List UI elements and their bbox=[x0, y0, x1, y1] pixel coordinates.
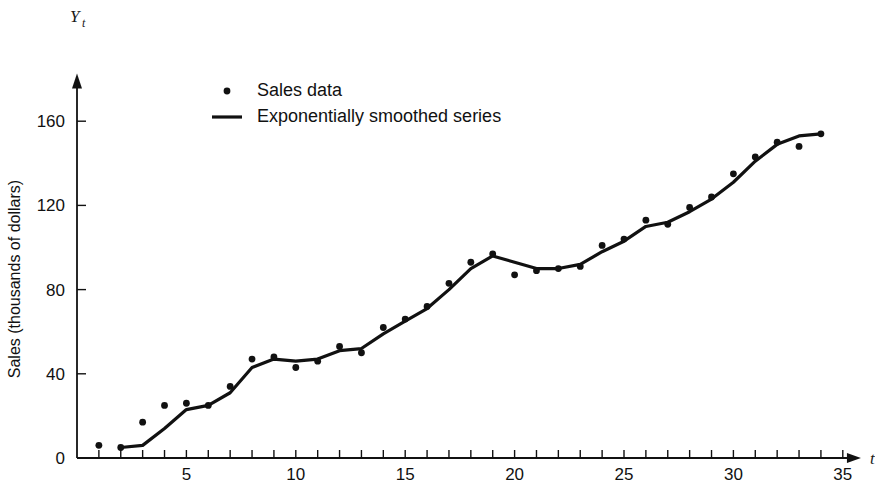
y-axis-tick-label: 160 bbox=[37, 112, 65, 131]
sales-data-point bbox=[774, 139, 781, 146]
sales-data-point bbox=[664, 221, 671, 228]
sales-data-point bbox=[380, 324, 387, 331]
sales-data-point bbox=[336, 343, 343, 350]
sales-data-point bbox=[314, 358, 321, 365]
sales-data-point bbox=[358, 349, 365, 356]
x-axis-tick-label: 25 bbox=[615, 465, 634, 481]
sales-data-point bbox=[555, 265, 562, 272]
sales-data-point bbox=[599, 242, 606, 249]
y-axis-arrow-icon bbox=[72, 74, 82, 89]
sales-data-point bbox=[467, 259, 474, 266]
sales-data-point bbox=[642, 217, 649, 224]
sales-data-point bbox=[292, 364, 299, 371]
sales-data-point bbox=[271, 354, 278, 361]
y-axis-tick-label: 120 bbox=[37, 196, 65, 215]
legend-dot-icon bbox=[224, 88, 231, 95]
sales-data-point bbox=[117, 444, 124, 451]
x-axis-tick-label: 15 bbox=[396, 465, 415, 481]
sales-data-point bbox=[752, 154, 759, 161]
sales-exponential-smoothing-chart: Sales dataExponentially smoothed series … bbox=[0, 0, 875, 481]
y-axis-tick-label: 40 bbox=[46, 365, 65, 384]
x-axis-tick-label: 30 bbox=[724, 465, 743, 481]
y-axis-label: Sales (thousands of dollars) bbox=[6, 180, 23, 378]
legend-label-sales-data: Sales data bbox=[257, 80, 343, 100]
sales-data-point bbox=[796, 143, 803, 150]
labels-group: 510152025303504080120160Sales (thousands… bbox=[6, 7, 875, 481]
x-axis-tick-label: 35 bbox=[833, 465, 852, 481]
sales-data-point bbox=[533, 267, 540, 274]
x-axis-tick-label: 10 bbox=[286, 465, 305, 481]
x-axis-tick-label: 20 bbox=[505, 465, 524, 481]
sales-data-point bbox=[402, 316, 409, 323]
x-axis-arrow-icon bbox=[847, 453, 861, 463]
x-axis-symbol: t bbox=[870, 449, 875, 468]
smoothed-series-line bbox=[121, 134, 821, 448]
sales-data-point bbox=[227, 383, 234, 390]
y-axis-tick-label: 80 bbox=[46, 281, 65, 300]
sales-data-point bbox=[621, 236, 628, 243]
sales-data-point bbox=[818, 130, 825, 137]
sales-data-point bbox=[205, 402, 212, 409]
sales-data-point bbox=[139, 419, 146, 426]
sales-data-point bbox=[95, 442, 102, 449]
sales-data-point bbox=[686, 204, 693, 211]
sales-data-point bbox=[708, 194, 715, 201]
sales-data-point bbox=[161, 402, 168, 409]
sales-data-point bbox=[183, 400, 190, 407]
sales-data-point bbox=[424, 303, 431, 310]
legend-group: Sales dataExponentially smoothed series bbox=[212, 80, 501, 126]
sales-data-point bbox=[249, 356, 256, 363]
x-axis-tick-label: 5 bbox=[182, 465, 191, 481]
data-group bbox=[95, 130, 824, 450]
axes-group bbox=[72, 74, 861, 463]
sales-data-point bbox=[577, 263, 584, 270]
sales-data-point bbox=[511, 271, 518, 278]
sales-data-point bbox=[446, 280, 453, 287]
sales-data-point bbox=[489, 250, 496, 257]
sales-data-point bbox=[730, 170, 737, 177]
y-axis-symbol: Y bbox=[70, 7, 81, 26]
legend-label-smoothed-series: Exponentially smoothed series bbox=[257, 106, 501, 126]
y-axis-tick-label: 0 bbox=[56, 449, 65, 468]
y-axis-symbol-subscript: t bbox=[82, 16, 86, 30]
chart-canvas: Sales dataExponentially smoothed series … bbox=[0, 0, 875, 481]
